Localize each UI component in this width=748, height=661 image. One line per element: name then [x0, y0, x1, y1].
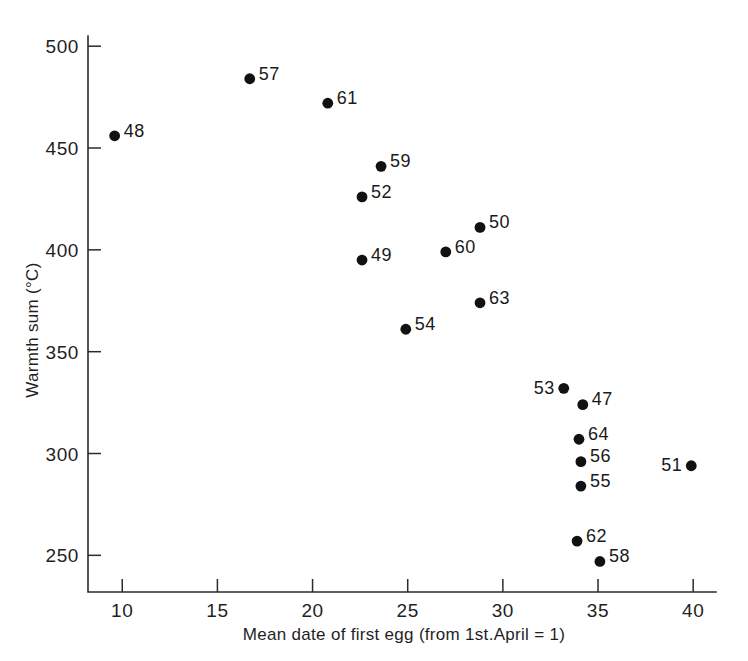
plot-canvas: 25030035040045050010152025303540 4857615…	[0, 0, 748, 661]
x-tick-label: 20	[301, 600, 323, 621]
data-point: 59	[376, 151, 411, 172]
x-tick-label: 10	[111, 600, 133, 621]
axes	[88, 36, 716, 592]
data-point: 63	[475, 288, 510, 309]
data-point-marker	[357, 255, 368, 266]
data-point-label: 60	[455, 237, 476, 257]
y-tick-label: 250	[45, 545, 79, 566]
data-point-label: 54	[415, 314, 436, 334]
data-point: 54	[400, 314, 435, 335]
data-point-label: 47	[592, 389, 613, 409]
data-point-label: 52	[371, 182, 392, 202]
x-axis-title: Mean date of first egg (from 1st.April =…	[243, 625, 565, 644]
data-points: 485761595249506063545347645655516258	[109, 64, 696, 567]
x-tick-label: 35	[587, 600, 609, 621]
x-tick-label: 25	[397, 600, 419, 621]
data-point: 51	[661, 455, 696, 475]
data-point-marker	[109, 130, 120, 141]
data-point: 58	[595, 546, 630, 567]
data-point: 48	[109, 121, 144, 142]
data-point-marker	[400, 324, 411, 335]
data-point: 60	[440, 237, 475, 258]
data-point-marker	[575, 481, 586, 492]
data-point-marker	[475, 222, 486, 233]
data-point: 56	[575, 446, 610, 467]
data-point-label: 48	[124, 121, 145, 141]
data-point-label: 64	[588, 424, 609, 444]
data-point-label: 56	[590, 446, 611, 466]
data-point: 57	[244, 64, 279, 85]
data-point: 47	[577, 389, 612, 410]
data-point: 61	[322, 88, 357, 109]
data-point-marker	[577, 399, 588, 410]
data-point-label: 63	[489, 288, 510, 308]
x-tick-label: 30	[492, 600, 514, 621]
data-point-marker	[244, 73, 255, 84]
data-point-label: 51	[661, 455, 682, 475]
x-tick-label: 40	[682, 600, 704, 621]
y-tick-label: 450	[45, 138, 79, 159]
data-point-marker	[575, 456, 586, 467]
data-point-marker	[376, 161, 387, 172]
data-point-label: 62	[586, 526, 607, 546]
data-point-label: 49	[371, 245, 392, 265]
data-point-marker	[322, 98, 333, 109]
data-point: 55	[575, 471, 610, 492]
data-point-label: 55	[590, 471, 611, 491]
data-point-marker	[574, 434, 585, 445]
data-point-marker	[572, 536, 583, 547]
data-point: 62	[572, 526, 607, 547]
x-tick-label: 15	[206, 600, 228, 621]
data-point-marker	[595, 556, 606, 567]
data-point: 52	[357, 182, 392, 203]
y-tick-label: 350	[45, 342, 79, 363]
data-point-marker	[686, 460, 697, 471]
data-point: 64	[574, 424, 609, 445]
data-point: 49	[357, 245, 392, 266]
data-point-label: 50	[489, 212, 510, 232]
data-point-label: 57	[259, 64, 280, 84]
data-point: 50	[475, 212, 510, 233]
scatter-plot-figure: 25030035040045050010152025303540 4857615…	[0, 0, 748, 661]
data-point-marker	[440, 246, 451, 257]
y-axis-title: Warmth sum (°C)	[23, 262, 42, 397]
data-point: 53	[534, 378, 569, 398]
data-point-label: 58	[609, 546, 630, 566]
data-point-label: 53	[534, 378, 555, 398]
data-point-marker	[558, 383, 569, 394]
data-point-marker	[357, 191, 368, 202]
y-tick-label: 300	[45, 444, 79, 465]
data-point-label: 61	[337, 88, 358, 108]
data-point-label: 59	[390, 151, 411, 171]
y-tick-label: 500	[45, 36, 79, 57]
y-tick-label: 400	[45, 240, 79, 261]
data-point-marker	[475, 297, 486, 308]
